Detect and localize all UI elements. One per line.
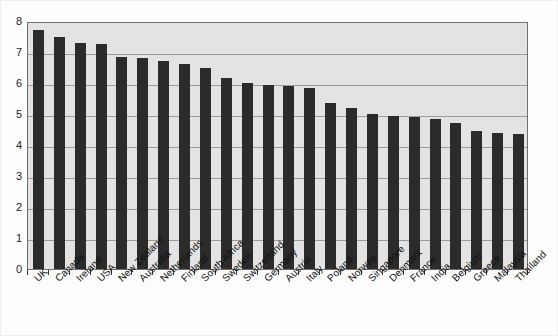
bar[interactable] xyxy=(471,131,482,269)
bar[interactable] xyxy=(283,86,294,269)
y-axis-tick-label: 6 xyxy=(16,78,22,89)
bar[interactable] xyxy=(75,43,86,269)
bar[interactable] xyxy=(492,133,503,269)
bar[interactable] xyxy=(137,58,148,269)
x-axis-labels: UKCanadaIrelandUSANew ZealandAustraliaNe… xyxy=(0,272,558,336)
bar[interactable] xyxy=(200,68,211,270)
bar[interactable] xyxy=(430,119,441,269)
bar-chart: 876543210 UKCanadaIrelandUSANew ZealandA… xyxy=(0,0,558,336)
bar[interactable] xyxy=(221,78,232,269)
y-axis-tick-label: 2 xyxy=(16,202,22,213)
bar[interactable] xyxy=(33,30,44,269)
bar[interactable] xyxy=(116,57,127,269)
bar[interactable] xyxy=(96,44,107,269)
y-axis-tick-label: 8 xyxy=(16,16,22,27)
bar[interactable] xyxy=(304,88,315,269)
y-axis-tick-label: 4 xyxy=(16,140,22,151)
bar[interactable] xyxy=(367,114,378,269)
bar[interactable] xyxy=(179,64,190,269)
y-axis-tick-label: 1 xyxy=(16,233,22,244)
y-axis-tick-label: 3 xyxy=(16,171,22,182)
bar[interactable] xyxy=(325,103,336,269)
bars-layer xyxy=(28,23,527,269)
bar[interactable] xyxy=(242,83,253,269)
bar[interactable] xyxy=(54,37,65,270)
bar[interactable] xyxy=(346,108,357,269)
bar[interactable] xyxy=(263,85,274,269)
bar[interactable] xyxy=(450,123,461,269)
y-axis-tick-label: 5 xyxy=(16,109,22,120)
y-axis-tick-label: 7 xyxy=(16,47,22,58)
bar[interactable] xyxy=(409,117,420,269)
plot-area xyxy=(27,22,528,270)
